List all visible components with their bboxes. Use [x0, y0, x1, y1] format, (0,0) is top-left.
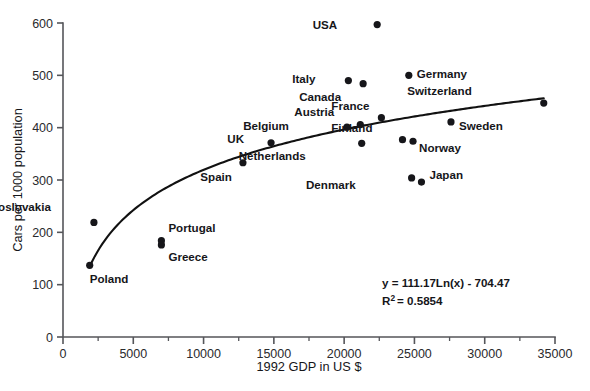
- figure-caption: [8, 381, 258, 390]
- y-axis-title: Cars per 1000 population: [10, 108, 25, 252]
- y-tick-label: 400: [32, 121, 53, 135]
- y-tick-label: 500: [32, 69, 53, 83]
- y-tick-label: 0: [46, 331, 53, 345]
- data-points: [86, 21, 547, 269]
- x-tick-label: 10000: [186, 347, 221, 361]
- point-label: Germany: [417, 67, 468, 80]
- y-tick-label: 200: [32, 226, 53, 240]
- point-label: USA: [313, 18, 338, 31]
- data-point: [345, 77, 352, 84]
- x-axis-title: 1992 GDP in US $: [256, 359, 361, 374]
- data-point: [267, 139, 274, 146]
- point-label: France: [331, 99, 370, 112]
- data-point: [86, 262, 93, 269]
- y-tick-label: 300: [32, 174, 53, 188]
- x-tick-label: 25000: [397, 347, 432, 361]
- x-tick-label: 0: [60, 347, 67, 361]
- point-label: Switzerland: [407, 84, 471, 97]
- point-label: Sweden: [459, 119, 503, 132]
- r-squared-value: R2= 0.5854: [382, 293, 443, 307]
- y-tick-label: 100: [32, 278, 53, 292]
- point-label: Poland: [90, 272, 129, 285]
- point-label: Spain: [200, 170, 232, 183]
- chart-canvas: 05000100001500020000250003000035000 0100…: [0, 0, 590, 391]
- point-label: Greece: [168, 250, 208, 263]
- point-label: Norway: [419, 141, 461, 154]
- point-label: Italy: [292, 72, 316, 85]
- point-label: Portugal: [168, 221, 215, 234]
- y-tick-label: 600: [32, 17, 53, 31]
- data-point: [405, 72, 412, 79]
- data-point: [360, 80, 367, 87]
- data-point: [90, 219, 97, 226]
- x-tick-label: 35000: [538, 347, 573, 361]
- data-point: [158, 241, 165, 248]
- data-point: [399, 136, 406, 143]
- point-label: UK: [227, 132, 244, 145]
- point-label: Denmark: [306, 178, 356, 191]
- regression-equation: y = 111.17Ln(x) - 704.47: [382, 276, 510, 289]
- point-label: Belgium: [243, 119, 289, 132]
- equation-annotation: y = 111.17Ln(x) - 704.47 R2= 0.5854: [382, 276, 510, 307]
- point-label: Japan: [429, 168, 463, 181]
- data-point: [408, 174, 415, 181]
- data-point: [409, 138, 416, 145]
- data-point: [447, 118, 454, 125]
- point-label: Finland: [331, 121, 372, 134]
- point-label: Netherlands: [239, 149, 306, 162]
- scatter-chart: 05000100001500020000250003000035000 0100…: [0, 0, 590, 391]
- x-tick-label: 30000: [467, 347, 502, 361]
- point-label: Czechoslovakia: [0, 200, 51, 213]
- data-point-labels: USAGermanyItalyCanadaSwitzerlandFranceSw…: [0, 18, 503, 286]
- data-point: [418, 178, 425, 185]
- data-point: [540, 99, 547, 106]
- y-axis-tick-labels: 0100200300400500600: [32, 17, 53, 345]
- data-point: [378, 114, 385, 121]
- data-point: [374, 21, 381, 28]
- point-label: Austria: [294, 105, 334, 118]
- data-point: [358, 140, 365, 147]
- x-tick-label: 5000: [119, 347, 147, 361]
